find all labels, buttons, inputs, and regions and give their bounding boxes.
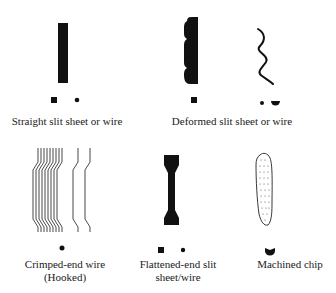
circle-cross-section-icon xyxy=(60,246,65,251)
crimped-wire-strand xyxy=(85,148,90,232)
half-circle-cross-section-icon xyxy=(271,101,280,106)
straight-fiber-label: Straight slit sheet or wire xyxy=(12,115,123,127)
crimped-wire-strand xyxy=(51,148,56,232)
circle-cross-section-icon xyxy=(260,101,264,105)
deformed-sheet-shape xyxy=(184,17,198,84)
crimped-wire-strand xyxy=(73,148,78,232)
flattened-fiber-label-line2: sheet/wire xyxy=(155,271,200,283)
straight-fiber-shape xyxy=(58,23,68,83)
crimped-wire-strand xyxy=(57,148,62,232)
flattened-fiber-shape xyxy=(164,155,179,225)
deformed-fiber-group: Deformed slit sheet or wire xyxy=(172,17,292,127)
flattened-fiber-label-line1: Flattened-end slit xyxy=(140,258,217,270)
wavy-wire-shape xyxy=(258,29,273,84)
crescent-cross-section-icon xyxy=(265,248,275,256)
fiber-types-diagram: Straight slit sheet or wire Deformed sli… xyxy=(0,0,336,293)
crimped-wire-strand xyxy=(48,148,53,232)
crimped-wire-strand xyxy=(36,148,41,232)
crimped-fiber-label-line2: (Hooked) xyxy=(44,271,86,284)
square-cross-section-icon xyxy=(158,247,164,253)
crimped-wire-strand xyxy=(33,148,38,232)
square-cross-section-icon xyxy=(51,97,57,103)
circle-cross-section-icon xyxy=(75,98,80,103)
deformed-fiber-label: Deformed slit sheet or wire xyxy=(172,115,292,127)
crimped-fiber-label-line1: Crimped-end wire xyxy=(25,258,105,270)
circle-cross-section-icon xyxy=(181,248,185,252)
crimped-wire-strand xyxy=(54,148,59,232)
crimped-wire-strand xyxy=(45,148,50,232)
machined-chip-shape xyxy=(256,153,272,225)
crimped-wire-strand xyxy=(39,148,44,232)
flattened-fiber-group: Flattened-end slit sheet/wire xyxy=(140,155,217,283)
straight-fiber-group: Straight slit sheet or wire xyxy=(12,23,123,127)
square-cross-section-icon xyxy=(191,97,197,103)
crimped-wire-strand xyxy=(42,148,47,232)
crimped-fiber-group xyxy=(33,148,90,232)
machined-chip-group: Machined chip xyxy=(256,153,323,270)
machined-chip-label: Machined chip xyxy=(257,258,323,270)
